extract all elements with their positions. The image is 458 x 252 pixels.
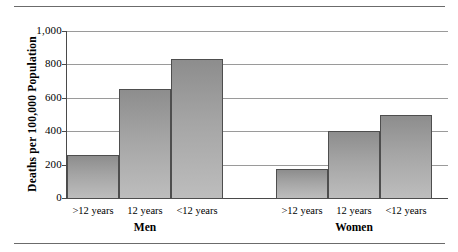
bar-chart-figure: 1,0008006004002000 Deaths per 100,000 Po… <box>0 0 458 252</box>
bar <box>380 115 432 200</box>
group-label: Women <box>276 221 432 233</box>
gridline <box>66 64 448 65</box>
category-label: >12 years <box>63 205 123 216</box>
category-label: <12 years <box>167 205 227 216</box>
y-tick-mark <box>62 31 67 32</box>
bar <box>67 155 119 199</box>
plot-area: 1,0008006004002000 Deaths per 100,000 Po… <box>0 0 458 252</box>
category-label: >12 years <box>272 205 332 216</box>
bar <box>276 169 328 199</box>
category-label: <12 years <box>376 205 436 216</box>
y-tick-mark <box>62 64 67 65</box>
group-label: Men <box>67 221 223 233</box>
bar <box>119 89 171 199</box>
category-label: 12 years <box>324 205 384 216</box>
category-label: 12 years <box>115 205 175 216</box>
gridline <box>66 31 448 32</box>
y-axis-title: Deaths per 100,000 Population <box>26 19 38 209</box>
bar <box>328 131 380 199</box>
y-tick-mark <box>62 131 67 132</box>
y-tick-mark <box>62 98 67 99</box>
bar <box>171 59 223 199</box>
